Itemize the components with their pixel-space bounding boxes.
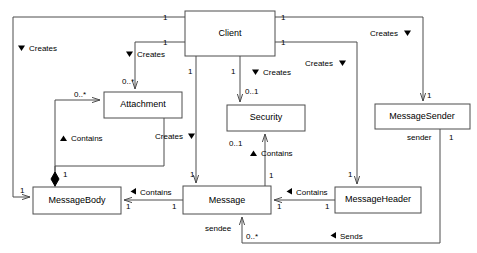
class-box-layer: Client Attachment Security MessageSender… <box>33 11 470 214</box>
class-name-attachment: Attachment <box>120 99 166 109</box>
assoc-text: Creates <box>29 44 57 53</box>
edge-client-creates-messagesender <box>275 17 423 101</box>
assoc-text: Creates <box>137 50 165 59</box>
diagram-canvas: Client Attachment Security MessageSender… <box>0 0 477 253</box>
edge-messagesender-sends-message <box>242 129 440 243</box>
multiplicity: 1 <box>348 170 353 179</box>
assoc-label-contains-messageheader: Contains <box>287 188 328 197</box>
class-box-messageheader[interactable]: MessageHeader <box>335 187 421 213</box>
assoc-text: Creates <box>263 68 291 77</box>
assoc-label-creates-messageheader: Creates <box>305 59 346 68</box>
multiplicity: 1 <box>190 170 195 179</box>
multiplicity: 0..* <box>246 232 258 241</box>
multiplicity: 1 <box>63 170 68 179</box>
assoc-label-creates-message: Creates <box>155 132 195 141</box>
assoc-text: Creates <box>155 132 183 141</box>
assoc-label-creates-attachment: Creates <box>126 50 165 59</box>
multiplicity: 1 <box>277 202 282 211</box>
multiplicity: 0..* <box>122 77 134 86</box>
class-name-security: Security <box>250 112 283 122</box>
assoc-text: Sends <box>340 232 363 241</box>
multiplicity: 1 <box>126 202 131 211</box>
multiplicity: 1 <box>163 13 168 22</box>
assoc-label-sends: Sends <box>331 232 363 241</box>
multiplicity: 1 <box>20 186 25 195</box>
class-name-message: Message <box>209 195 246 205</box>
assoc-label-creates-security: Creates <box>252 68 291 77</box>
assoc-text: Contains <box>261 149 293 158</box>
assoc-text: Creates <box>305 59 333 68</box>
assoc-text: Contains <box>296 188 328 197</box>
assoc-label-creates-messagesender: Creates <box>370 29 411 38</box>
multiplicity: 0..1 <box>245 87 259 96</box>
multiplicity: 1 <box>188 67 193 76</box>
role-label-sendee: sendee <box>205 224 232 233</box>
multiplicity: 1 <box>172 202 177 211</box>
composition-diamond-messagebody <box>51 172 59 186</box>
class-box-client[interactable]: Client <box>185 11 275 56</box>
class-box-attachment[interactable]: Attachment <box>104 92 182 118</box>
edge-contains-to-messagebody-diamond <box>55 166 164 180</box>
assoc-label-contains-attachment: Contains <box>60 134 103 143</box>
assoc-label-contains-security: Contains <box>250 149 293 158</box>
multiplicity: 1 <box>269 171 274 180</box>
assoc-text: Contains <box>140 188 172 197</box>
multiplicity: 1 <box>163 38 168 47</box>
class-name-messagesender: MessageSender <box>389 111 455 121</box>
assoc-text: Creates <box>370 29 398 38</box>
role-label-layer: sender sendee <box>205 133 432 233</box>
multiplicity: 0..1 <box>229 139 243 148</box>
multiplicity: 0..* <box>74 90 86 99</box>
multiplicity: 1 <box>281 13 286 22</box>
class-box-message[interactable]: Message <box>183 186 271 214</box>
multiplicity: 1 <box>231 67 236 76</box>
uml-class-diagram: Client Attachment Security MessageSender… <box>0 0 477 253</box>
multiplicity: 1 <box>449 133 454 142</box>
class-name-messagebody: MessageBody <box>48 195 106 205</box>
multiplicity: 1 <box>281 38 286 47</box>
assoc-text: Contains <box>71 134 103 143</box>
multiplicity: 1 <box>325 202 330 211</box>
role-label-sender: sender <box>407 133 432 142</box>
assoc-label-creates-messagebody: Creates <box>18 44 57 53</box>
multiplicity: 1 <box>427 91 432 100</box>
class-name-messageheader: MessageHeader <box>345 194 411 204</box>
class-box-messagebody[interactable]: MessageBody <box>33 187 121 214</box>
class-box-messagesender[interactable]: MessageSender <box>375 104 470 129</box>
assoc-label-contains-messagebody: Contains <box>131 188 172 197</box>
class-box-security[interactable]: Security <box>227 105 305 131</box>
class-name-client: Client <box>218 28 242 38</box>
